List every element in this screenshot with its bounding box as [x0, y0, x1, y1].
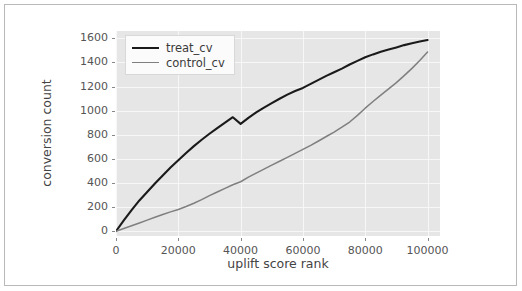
x-axis-label: uplift score rank: [227, 256, 328, 271]
y-tick-mark: [112, 111, 115, 112]
y-tick-label: 1400: [80, 57, 108, 67]
y-tick-label: 0: [101, 226, 108, 236]
y-tick-mark: [112, 231, 115, 232]
y-tick-mark: [112, 62, 115, 63]
x-tick-mark: [365, 238, 366, 241]
legend-swatch-control_cv: [132, 62, 159, 63]
figure-canvas: 02004006008001000120014001600 0200004000…: [0, 0, 522, 291]
y-tick-label: 800: [87, 130, 108, 140]
y-tick-mark: [112, 207, 115, 208]
legend-label-treat_cv: treat_cv: [166, 41, 213, 55]
x-tick-mark: [241, 238, 242, 241]
x-tick-mark: [178, 238, 179, 241]
y-tick-mark: [112, 38, 115, 39]
chart-legend: treat_cvcontrol_cv: [125, 35, 235, 75]
y-tick-label: 1200: [80, 82, 108, 92]
x-tick-label: 100000: [388, 245, 468, 256]
y-tick-mark: [112, 183, 115, 184]
y-tick-label: 600: [87, 154, 108, 164]
x-tick-mark: [428, 238, 429, 241]
x-tick-mark: [303, 238, 304, 241]
y-tick-mark: [112, 87, 115, 88]
y-tick-mark: [112, 135, 115, 136]
series-line-control_cv: [116, 52, 428, 231]
y-tick-label: 1000: [80, 106, 108, 116]
y-tick-label: 200: [87, 202, 108, 212]
legend-label-control_cv: control_cv: [166, 56, 225, 70]
legend-entry-control_cv: control_cv: [132, 55, 225, 70]
y-tick-mark: [112, 159, 115, 160]
legend-entry-treat_cv: treat_cv: [132, 40, 225, 55]
x-tick-mark: [116, 238, 117, 241]
y-tick-label: 1600: [80, 33, 108, 43]
y-axis-label: conversion count: [39, 79, 54, 186]
legend-swatch-treat_cv: [132, 47, 159, 49]
y-tick-label: 400: [87, 178, 108, 188]
